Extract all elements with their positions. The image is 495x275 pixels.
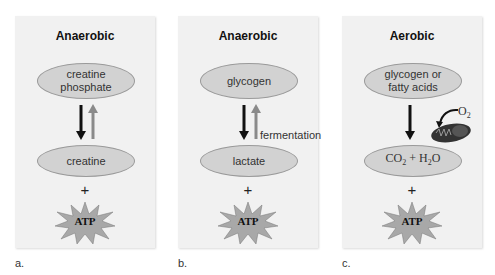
- plus-sign: +: [178, 181, 318, 198]
- molecule-label: CO2 + H2O: [386, 152, 441, 169]
- co2-h2o-ellipse: CO2 + H2O: [364, 145, 462, 177]
- forward-arrow-icon: [402, 103, 432, 141]
- molecule-label: creatine: [66, 155, 105, 168]
- reversible-arrows-icon: [73, 103, 103, 141]
- panel-title: Aerobic: [342, 29, 482, 43]
- molecule-label: glycogen or: [385, 68, 442, 80]
- panel-title: Anaerobic: [178, 29, 318, 43]
- atp-label: ATP: [178, 215, 318, 227]
- panel-c: Aerobic glycogen orfatty acids O2 CO2 + …: [342, 16, 482, 248]
- glycogen-ellipse: glycogen: [200, 63, 298, 99]
- panel-letter-a: a.: [15, 257, 24, 269]
- molecule-label: creatine: [66, 68, 105, 80]
- molecule-label: lactate: [233, 155, 265, 168]
- molecule-label: phosphate: [60, 81, 111, 93]
- molecule-label: glycogen: [227, 75, 271, 88]
- creatine-phosphate-ellipse: creatinephosphate: [37, 63, 135, 99]
- panel-letter-c: c.: [342, 257, 351, 269]
- plus-sign: +: [342, 181, 482, 198]
- glycogen-or-fatty-acids-ellipse: glycogen orfatty acids: [364, 63, 462, 99]
- creatine-ellipse: creatine: [37, 145, 135, 177]
- mitochondrion-icon: [430, 122, 472, 144]
- panel-letter-b: b.: [178, 257, 187, 269]
- atp-label: ATP: [342, 215, 482, 227]
- molecule-label: fatty acids: [388, 81, 438, 93]
- atp-label: ATP: [15, 215, 155, 227]
- panel-a: Anaerobic creatinephosphate creatine + A…: [15, 16, 155, 248]
- plus-sign: +: [15, 181, 155, 198]
- panel-title: Anaerobic: [15, 29, 155, 43]
- panel-b: Anaerobic glycogen fermentation lactate …: [178, 16, 318, 248]
- lactate-ellipse: lactate: [200, 145, 298, 177]
- fermentation-label: fermentation: [260, 129, 321, 141]
